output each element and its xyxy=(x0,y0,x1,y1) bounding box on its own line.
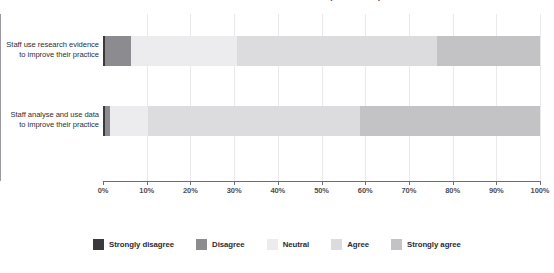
x-tick-label: 70% xyxy=(389,186,429,195)
legend-swatch xyxy=(267,239,278,250)
category-label: Staff use research evidenceto improve th… xyxy=(0,40,99,60)
legend-item[interactable]: Disagree xyxy=(196,239,245,250)
legend-item[interactable]: Strongly disagree xyxy=(93,239,174,250)
plot-area xyxy=(103,14,540,181)
x-tick-mark xyxy=(322,181,323,185)
bar-segment[interactable] xyxy=(148,106,360,136)
legend-item[interactable]: Strongly agree xyxy=(391,239,461,250)
stacked-bar-chart: Staff use of research evidence and data … xyxy=(0,0,554,273)
x-tick-label: 60% xyxy=(345,186,385,195)
bar-segment[interactable] xyxy=(131,36,237,66)
legend-swatch xyxy=(93,239,104,250)
legend-swatch xyxy=(331,239,342,250)
category-label-line: Staff use research evidence xyxy=(0,40,99,50)
legend-label: Agree xyxy=(347,240,369,249)
bar-segment[interactable] xyxy=(360,106,540,136)
category-label-line: to improve their practice xyxy=(0,120,99,130)
chart-legend: Strongly disagreeDisagreeNeutralAgreeStr… xyxy=(0,236,554,252)
x-tick-mark xyxy=(190,181,191,185)
x-tick-label: 30% xyxy=(214,186,254,195)
x-tick-label: 0% xyxy=(83,186,123,195)
category-label-line: Staff analyse and use data xyxy=(0,110,99,120)
x-tick-label: 40% xyxy=(258,186,298,195)
legend-swatch xyxy=(196,239,207,250)
category-label-line: to improve their practice xyxy=(0,50,99,60)
gridline xyxy=(540,14,541,181)
legend-label: Neutral xyxy=(283,240,310,249)
x-tick-label: 50% xyxy=(302,186,342,195)
x-tick-label: 20% xyxy=(170,186,210,195)
bar-segment[interactable] xyxy=(110,106,148,136)
legend-label: Disagree xyxy=(212,240,245,249)
bar-group xyxy=(103,106,540,136)
x-tick-mark xyxy=(453,181,454,185)
legend-item[interactable]: Agree xyxy=(331,239,369,250)
x-tick-mark xyxy=(496,181,497,185)
legend-label: Strongly disagree xyxy=(109,240,174,249)
x-tick-label: 100% xyxy=(520,186,554,195)
chart-title: Staff use of research evidence and data … xyxy=(0,0,554,3)
x-tick-label: 90% xyxy=(476,186,516,195)
x-tick-mark xyxy=(365,181,366,185)
legend-swatch xyxy=(391,239,402,250)
x-tick-label: 10% xyxy=(127,186,167,195)
x-tick-mark xyxy=(234,181,235,185)
bar-segment[interactable] xyxy=(105,36,131,66)
x-tick-label: 80% xyxy=(433,186,473,195)
category-label: Staff analyse and use datato improve the… xyxy=(0,110,99,130)
bar-segment[interactable] xyxy=(237,36,437,66)
x-tick-mark xyxy=(540,181,541,185)
bar-segment[interactable] xyxy=(437,36,540,66)
legend-item[interactable]: Neutral xyxy=(267,239,310,250)
legend-label: Strongly agree xyxy=(407,240,461,249)
x-tick-mark xyxy=(103,181,104,185)
x-tick-mark xyxy=(278,181,279,185)
bar-group xyxy=(103,36,540,66)
x-tick-mark xyxy=(409,181,410,185)
x-tick-mark xyxy=(147,181,148,185)
